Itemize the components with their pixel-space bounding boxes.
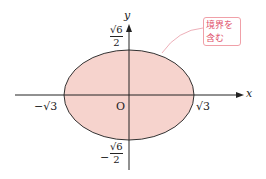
x-axis-arrow-icon — [236, 92, 244, 98]
y-neg-num: √6 — [110, 142, 123, 152]
y-axis-arrow-icon — [126, 24, 132, 32]
y-axis-label: y — [124, 10, 130, 21]
y-pos-den: 2 — [113, 38, 119, 48]
ellipse-diagram: y x O −√3 √3 √6 2 − √6 2 境界を 含む — [0, 0, 266, 179]
callout-leader — [162, 28, 203, 53]
y-neg-label: √6 2 — [110, 142, 123, 165]
callout-line-2: 含む — [206, 32, 238, 45]
y-neg-den: 2 — [113, 155, 119, 165]
origin-label: O — [116, 101, 125, 112]
x-pos-label: √3 — [196, 101, 210, 112]
callout-line-1: 境界を — [206, 19, 238, 32]
y-pos-label: √6 2 — [110, 25, 123, 48]
y-neg-sign: − — [100, 152, 109, 163]
y-pos-num: √6 — [110, 25, 123, 35]
x-neg-label: −√3 — [34, 101, 57, 112]
x-axis-label: x — [246, 88, 252, 99]
boundary-callout: 境界を 含む — [203, 17, 241, 46]
